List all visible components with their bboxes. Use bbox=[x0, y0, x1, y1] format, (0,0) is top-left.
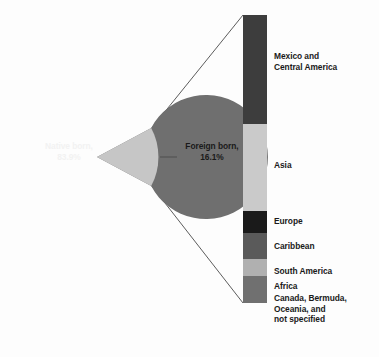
pie-label-foreign-born: Foreign born, 16.1% bbox=[175, 141, 249, 162]
bar-segment-asia bbox=[243, 124, 267, 211]
pie-label-native-born: Native born, 83.9% bbox=[30, 141, 108, 162]
bar-label-south-america: South America bbox=[274, 266, 332, 277]
bar-segment-africa bbox=[243, 276, 267, 303]
bar-segment-south-america bbox=[243, 259, 267, 276]
bar-label-europe: Europe bbox=[274, 216, 303, 227]
bar-label-caribbean: Caribbean bbox=[274, 241, 315, 252]
bar-label-africa: Africa bbox=[274, 281, 297, 292]
bar-segment-mexico-central-america bbox=[243, 15, 267, 124]
bar-segment-caribbean bbox=[243, 233, 267, 259]
bar-segment-europe bbox=[243, 211, 267, 233]
bar-label-mexico-central-america: Mexico and Central America bbox=[274, 51, 337, 72]
foreign-born-population-figure: Native born, 83.9% Foreign born, 16.1% M… bbox=[0, 0, 379, 357]
bar-label-asia: Asia bbox=[274, 160, 292, 171]
bar-label-canada-bermuda-oceania-not-specified: Canada, Bermuda, Oceania, and not specif… bbox=[274, 293, 347, 325]
